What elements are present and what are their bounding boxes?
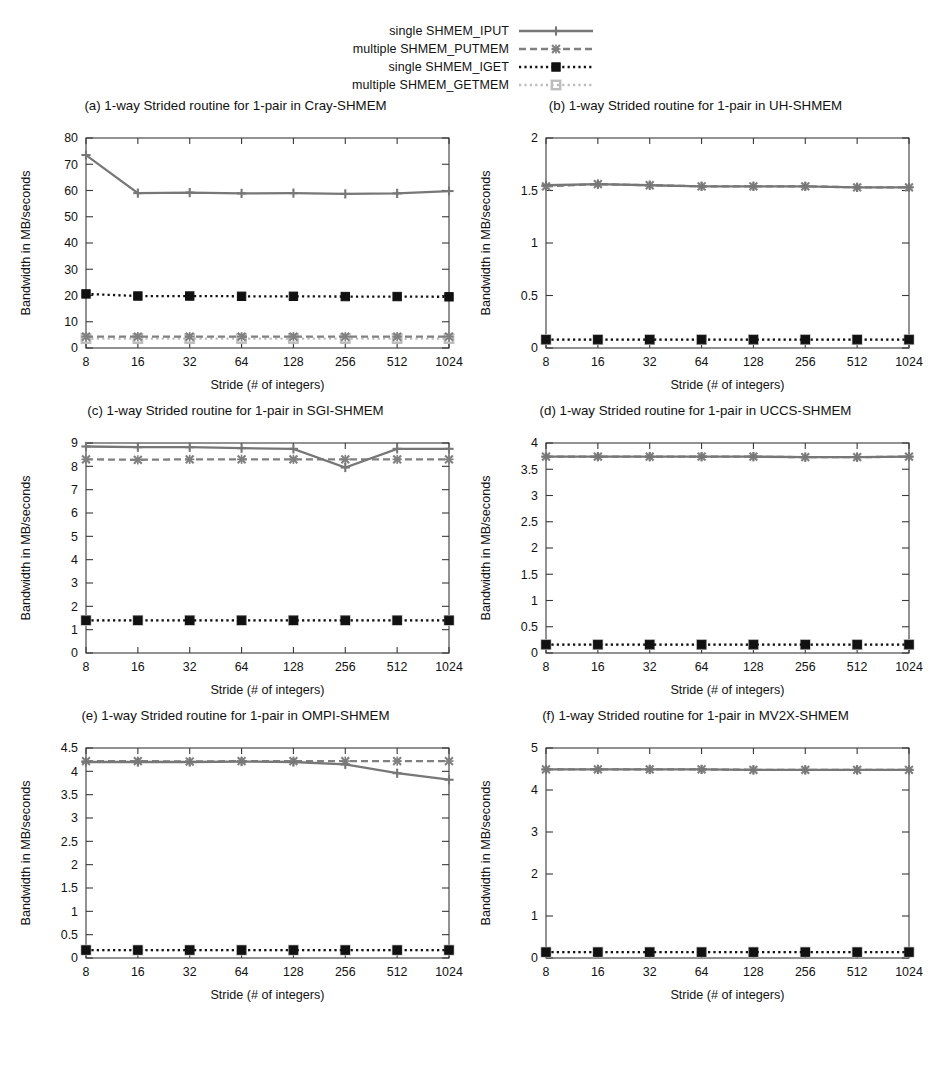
series-putmem-c: [81, 455, 453, 465]
x-tick-label: 512: [847, 355, 868, 369]
y-tick-label: 3: [531, 489, 538, 503]
y-tick-label: 1: [531, 236, 538, 250]
x-tick-label: 1024: [435, 965, 463, 979]
y-tick-label: 2: [71, 600, 78, 614]
x-tick-label: 8: [543, 355, 550, 369]
y-tick-label: 1.5: [521, 568, 538, 582]
x-tick-label: 128: [283, 965, 304, 979]
series-iget-d: [542, 640, 913, 648]
legend-label-putmem: multiple SHMEM_PUTMEM: [353, 42, 509, 56]
legend-swatch-iget: [517, 59, 595, 75]
y-axis-title: Bandwidth in MB/seconds: [479, 476, 493, 621]
x-tick-label: 256: [335, 355, 356, 369]
y-tick-label: 2.5: [521, 515, 538, 529]
legend-swatch-iput: [517, 23, 595, 39]
y-tick-label: 0: [531, 341, 538, 355]
y-tick-label: 4: [531, 436, 538, 450]
legend-label-getmem: multiple SHMEM_GETMEM: [352, 78, 509, 92]
plot-area-f: 01234581632641282565121024Stride (# of i…: [468, 726, 923, 1010]
x-tick-label: 512: [847, 660, 868, 674]
x-tick-label: 64: [695, 355, 709, 369]
chart-title-c: (c) 1-way Strided routine for 1-pair in …: [8, 403, 463, 418]
x-tick-label: 16: [131, 965, 145, 979]
y-axis-title: Bandwidth in MB/seconds: [19, 781, 33, 926]
x-tick-label: 1024: [895, 965, 923, 979]
plot-area-d: 00.511.522.533.5481632641282565121024Str…: [468, 421, 923, 705]
chart-panel-a: (a) 1-way Strided routine for 1-pair in …: [8, 98, 463, 400]
y-tick-label: 0.5: [61, 928, 78, 942]
chart-title-e: (e) 1-way Strided routine for 1-pair in …: [8, 708, 463, 723]
series-iget-a: [82, 290, 453, 301]
y-tick-label: 40: [64, 236, 78, 250]
x-tick-label: 512: [847, 965, 868, 979]
y-tick-label: 2: [71, 858, 78, 872]
chart-panel-c: (c) 1-way Strided routine for 1-pair in …: [8, 403, 463, 705]
y-tick-label: 4: [531, 783, 538, 797]
x-axis-title: Stride (# of integers): [210, 988, 324, 1002]
x-tick-label: 1024: [895, 660, 923, 674]
x-tick-label: 64: [235, 660, 249, 674]
y-tick-label: 9: [71, 436, 78, 450]
x-tick-label: 16: [591, 660, 605, 674]
series-iput-f: [541, 765, 913, 775]
x-tick-label: 32: [643, 355, 657, 369]
y-tick-label: 4: [71, 765, 78, 779]
y-tick-label: 2.5: [61, 835, 78, 849]
x-axis-title: Stride (# of integers): [210, 378, 324, 392]
chart-title-b: (b) 1-way Strided routine for 1-pair in …: [468, 98, 923, 113]
x-tick-label: 128: [283, 355, 304, 369]
plot-area-b: 00.511.5281632641282565121024Stride (# o…: [468, 116, 923, 400]
y-axis-title: Bandwidth in MB/seconds: [19, 476, 33, 621]
y-axis-title: Bandwidth in MB/seconds: [479, 171, 493, 316]
legend-swatch-putmem: [517, 41, 595, 57]
x-axis-title: Stride (# of integers): [670, 378, 784, 392]
y-tick-label: 7: [71, 483, 78, 497]
y-tick-label: 5: [71, 530, 78, 544]
legend-label-iput: single SHMEM_IPUT: [389, 24, 509, 38]
y-tick-label: 8: [71, 460, 78, 474]
chart-title-a: (a) 1-way Strided routine for 1-pair in …: [8, 98, 463, 113]
y-tick-label: 70: [64, 158, 78, 172]
x-tick-label: 16: [591, 965, 605, 979]
y-tick-label: 3.5: [521, 463, 538, 477]
x-axis-title: Stride (# of integers): [670, 683, 784, 697]
x-tick-label: 128: [283, 660, 304, 674]
legend-swatch-getmem: [517, 77, 595, 93]
x-tick-label: 8: [83, 355, 90, 369]
x-tick-label: 256: [335, 965, 356, 979]
y-tick-label: 1.5: [61, 881, 78, 895]
y-tick-label: 5: [531, 741, 538, 755]
x-tick-label: 128: [743, 660, 764, 674]
y-tick-label: 1.5: [521, 184, 538, 198]
x-tick-label: 32: [643, 965, 657, 979]
y-tick-label: 0: [531, 951, 538, 965]
y-tick-label: 80: [64, 131, 78, 145]
x-tick-label: 64: [695, 660, 709, 674]
chart-panel-e: (e) 1-way Strided routine for 1-pair in …: [8, 708, 463, 1010]
y-tick-label: 50: [64, 210, 78, 224]
x-tick-label: 1024: [435, 355, 463, 369]
legend-item-iput: single SHMEM_IPUT: [225, 22, 595, 40]
x-tick-label: 32: [643, 660, 657, 674]
series-iput-d: [541, 452, 913, 462]
plot-area-e: 00.511.522.533.544.581632641282565121024…: [8, 726, 463, 1010]
y-tick-label: 0.5: [521, 620, 538, 634]
series-iget-b: [542, 335, 913, 343]
chart-title-d: (d) 1-way Strided routine for 1-pair in …: [468, 403, 923, 418]
plot-area-c: 012345678981632641282565121024Stride (# …: [8, 421, 463, 705]
series-iput-b: [541, 180, 913, 192]
series-iget-f: [542, 948, 913, 956]
series-putmem-a: [81, 332, 453, 341]
x-tick-label: 128: [743, 965, 764, 979]
x-tick-label: 16: [131, 355, 145, 369]
y-tick-label: 4: [71, 553, 78, 567]
y-tick-label: 0: [71, 341, 78, 355]
x-tick-label: 64: [235, 965, 249, 979]
x-tick-label: 16: [131, 660, 145, 674]
x-tick-label: 8: [543, 660, 550, 674]
chart-title-f: (f) 1-way Strided routine for 1-pair in …: [468, 708, 923, 723]
y-tick-label: 2: [531, 131, 538, 145]
y-tick-label: 6: [71, 506, 78, 520]
x-tick-label: 512: [387, 660, 408, 674]
y-axis-title: Bandwidth in MB/seconds: [19, 171, 33, 316]
